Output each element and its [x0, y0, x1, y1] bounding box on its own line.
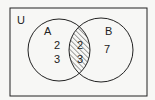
universe-label: U [17, 14, 25, 26]
set-b-label: B [105, 25, 112, 37]
intersection-element: 2 [77, 39, 83, 51]
set-b-only-element: 7 [104, 43, 110, 55]
set-a-only-element: 2 [54, 39, 60, 51]
venn-diagram: U A B 2 3 2 3 7 [0, 0, 155, 100]
set-a-only-element: 3 [54, 53, 60, 65]
set-a-label: A [44, 25, 52, 37]
intersection-element: 3 [77, 53, 83, 65]
